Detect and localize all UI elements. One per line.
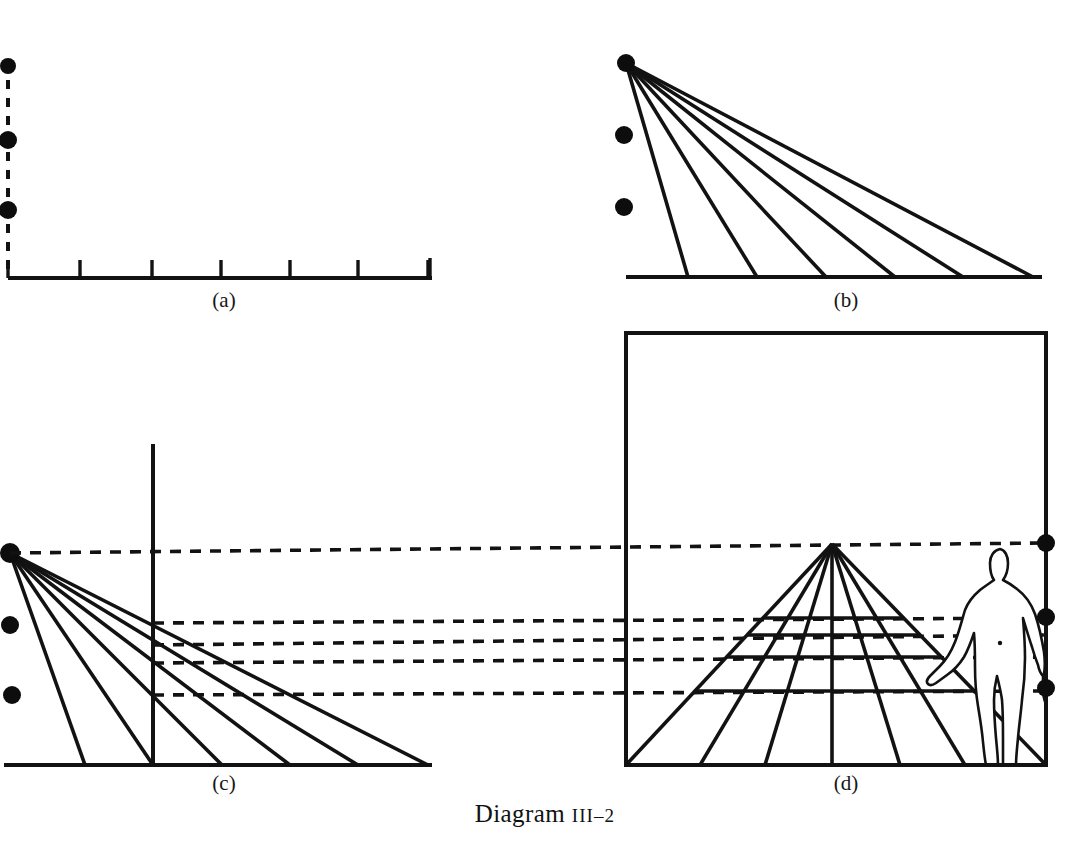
panel-d-label: (d) <box>834 771 859 795</box>
visual-ray <box>10 553 358 765</box>
station-dot <box>0 58 16 74</box>
grid-orthogonal <box>832 544 965 765</box>
station-dot <box>0 201 17 219</box>
panel-a: (a) <box>0 58 432 312</box>
grid-orthogonal <box>765 544 832 765</box>
station-dot <box>1037 608 1055 626</box>
eye-point-dot <box>617 54 635 72</box>
station-dot <box>615 126 633 144</box>
visual-ray <box>626 63 895 277</box>
horizon-projection-line <box>10 543 1046 553</box>
panel-b-label: (b) <box>834 288 859 312</box>
station-dot <box>1037 679 1055 697</box>
station-dot <box>1037 534 1055 552</box>
caption-prefix: Diagram <box>475 800 572 827</box>
panel-d: (d) <box>626 333 1055 795</box>
visual-ray <box>10 553 222 765</box>
visual-ray <box>626 63 1033 277</box>
station-dot <box>0 131 17 149</box>
grid-orthogonal <box>700 544 832 765</box>
panel-c-label: (c) <box>212 771 235 795</box>
visual-ray <box>10 553 153 765</box>
figure-caption: Diagram III–2 <box>475 800 615 827</box>
human-figure-navel <box>998 641 1002 645</box>
panel-c-visual-rays <box>10 553 428 765</box>
panel-c: (c) <box>0 444 432 795</box>
station-dot <box>1 616 19 634</box>
visual-ray <box>626 63 757 277</box>
depth-projection-line <box>153 618 1046 623</box>
panel-b: (b) <box>615 54 1042 312</box>
visual-ray <box>10 553 290 765</box>
grid-orthogonal <box>626 544 832 765</box>
diagram-figure: (a) (b) (c) <box>0 0 1090 855</box>
station-dot <box>3 686 21 704</box>
perspective-construction-diagram: (a) (b) (c) <box>0 0 1090 855</box>
station-dot <box>615 198 633 216</box>
panel-a-division-ticks <box>8 258 430 278</box>
panel-a-label: (a) <box>212 288 235 312</box>
caption-number: III–2 <box>572 805 615 826</box>
panel-b-visual-rays <box>626 63 1033 277</box>
